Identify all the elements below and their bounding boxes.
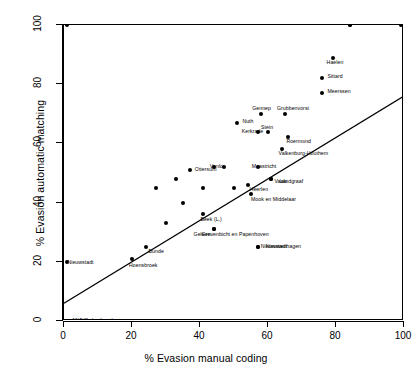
x-axis-line bbox=[63, 321, 403, 322]
data-point-label: Herkenbosch bbox=[83, 318, 114, 320]
y-tick-label: 100 bbox=[32, 9, 43, 39]
data-point-label: Hoensbroek bbox=[129, 263, 157, 268]
data-point bbox=[181, 201, 185, 205]
x-tick-mark bbox=[403, 321, 404, 327]
data-point bbox=[320, 76, 324, 80]
data-point bbox=[65, 319, 69, 320]
data-point bbox=[232, 186, 236, 190]
y-tick-mark bbox=[56, 320, 62, 321]
data-point bbox=[235, 121, 239, 125]
data-point bbox=[130, 257, 134, 261]
y-tick-mark bbox=[56, 24, 62, 25]
data-point bbox=[65, 319, 69, 320]
y-tick-mark bbox=[56, 202, 62, 203]
scatter-plot-figure: 020406080100 020406080100 % Evasion manu… bbox=[0, 0, 412, 390]
data-point bbox=[164, 221, 168, 225]
y-tick-mark bbox=[56, 142, 62, 143]
data-point-label: Sittard bbox=[327, 74, 342, 79]
data-point bbox=[144, 245, 148, 249]
data-point-label: Roermond bbox=[286, 139, 311, 144]
data-point-label: Geleen bbox=[194, 232, 211, 237]
data-point-label: Valkenburg-Houthem bbox=[279, 151, 329, 156]
x-tick-mark bbox=[131, 321, 132, 327]
data-point-label: Meerssen bbox=[327, 89, 350, 94]
data-point bbox=[154, 186, 158, 190]
x-tick-label: 80 bbox=[315, 330, 355, 341]
y-axis-title: % Evasion automatic matching bbox=[34, 43, 46, 303]
x-tick-mark bbox=[199, 321, 200, 327]
x-tick-mark bbox=[267, 321, 268, 327]
data-point bbox=[174, 177, 178, 181]
regression-line bbox=[64, 25, 403, 320]
x-tick-label: 20 bbox=[111, 330, 151, 341]
x-tick-mark bbox=[335, 321, 336, 327]
data-point bbox=[188, 168, 192, 172]
data-point bbox=[212, 227, 216, 231]
data-point bbox=[402, 319, 403, 320]
y-tick-mark bbox=[56, 261, 62, 262]
x-tick-mark bbox=[63, 321, 64, 327]
x-axis-title: % Evasion manual coding bbox=[0, 352, 412, 364]
data-point bbox=[259, 112, 263, 116]
data-point bbox=[266, 130, 270, 134]
data-point bbox=[201, 186, 205, 190]
y-tick-label: 0 bbox=[32, 305, 43, 335]
data-point bbox=[65, 24, 69, 27]
data-point bbox=[402, 24, 403, 27]
x-tick-label: 100 bbox=[383, 330, 412, 341]
data-point-label: Landgraaf bbox=[279, 179, 303, 184]
data-point-label: Maastricht bbox=[252, 164, 276, 169]
data-point-label: Nuth bbox=[242, 119, 253, 124]
x-tick-label: 40 bbox=[179, 330, 219, 341]
data-point bbox=[320, 91, 324, 95]
data-point-label: Gennep bbox=[252, 106, 271, 111]
data-point bbox=[269, 177, 273, 181]
data-point-label: Mook en Middelaar bbox=[251, 197, 296, 202]
data-point-label: Nieuwstadt bbox=[67, 260, 93, 265]
data-point-label: Beek (L.) bbox=[200, 217, 222, 222]
data-point-label: Schinnen bbox=[73, 24, 95, 26]
data-point bbox=[348, 24, 352, 27]
plot-area: SchinnenEchtEijsdenScHaelenSittardMeerss… bbox=[63, 24, 403, 320]
data-point-label: Nieuwenhagen bbox=[266, 244, 301, 249]
data-point bbox=[283, 112, 287, 116]
data-point-label: Heerlen bbox=[250, 187, 269, 192]
x-tick-label: 0 bbox=[43, 330, 83, 341]
y-tick-mark bbox=[56, 83, 62, 84]
data-point-label: Stein bbox=[261, 125, 273, 130]
data-point-label: Grubbenvorst bbox=[277, 106, 309, 111]
data-point bbox=[65, 319, 69, 320]
data-point-label: Bunde bbox=[149, 249, 164, 254]
data-point bbox=[256, 245, 260, 249]
x-tick-label: 60 bbox=[247, 330, 287, 341]
data-point-label: Grevenbicht en Papenhoven bbox=[202, 232, 269, 237]
data-point bbox=[212, 165, 216, 169]
data-point-label: Haelen bbox=[327, 60, 344, 65]
